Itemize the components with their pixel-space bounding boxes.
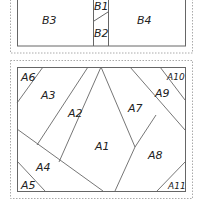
label-B3: B3	[42, 14, 57, 27]
label-A9: A9	[154, 87, 170, 100]
top-panel: B3 B1 B2 B4	[11, 0, 193, 53]
b1-b2-divider	[94, 12, 108, 21]
label-A8: A8	[147, 149, 163, 162]
label-B2: B2	[94, 27, 109, 40]
label-A5: A5	[20, 179, 36, 192]
label-B4: B4	[137, 14, 152, 27]
label-A10: A10	[166, 72, 185, 82]
label-A11: A11	[167, 181, 186, 191]
label-A4: A4	[35, 161, 51, 174]
label-A7: A7	[127, 102, 143, 115]
bottom-seam-allowance	[11, 61, 193, 199]
label-A2: A2	[67, 107, 83, 120]
label-B1: B1	[94, 0, 109, 13]
label-A3: A3	[40, 89, 56, 102]
a8-a9-line	[135, 115, 156, 147]
bottom-panel: A6 A3 A2 A1 A7 A9 A10 A8 A4 A5 A11	[11, 61, 193, 199]
label-A1: A1	[94, 140, 110, 153]
paper-piecing-diagram: B3 B1 B2 B4 A6 A3 A2 A1 A7 A9 A10 A8 A4 …	[0, 0, 201, 209]
a3-a2-line	[37, 67, 88, 145]
label-A6: A6	[20, 71, 36, 84]
a1-a7-a8-line	[101, 67, 135, 191]
